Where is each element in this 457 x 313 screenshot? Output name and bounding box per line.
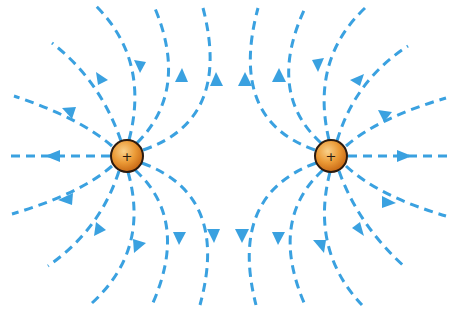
left-charge: + (111, 140, 143, 172)
right-charge: + (315, 140, 347, 172)
arrow-icon (352, 222, 364, 236)
arrow-left-icon (45, 150, 60, 162)
arrow-icon (133, 239, 146, 253)
arrow-icon (312, 58, 324, 72)
arrow-icon (96, 72, 108, 85)
field-line (137, 6, 169, 143)
arrow-icon (94, 222, 106, 236)
arrow-icon (382, 196, 396, 208)
field-line (92, 172, 134, 303)
charge-sign: + (326, 149, 337, 164)
charge-sign: + (122, 149, 133, 164)
field-line (96, 6, 135, 140)
arrow-icon (272, 68, 286, 82)
field-diagram: + + (0, 0, 457, 313)
arrow-icon (207, 229, 220, 243)
field-line (324, 172, 362, 305)
field-line (290, 170, 323, 305)
field-line (135, 170, 168, 305)
arrow-icon (350, 74, 364, 86)
arrow-icon (313, 240, 326, 253)
arrow-icon (58, 193, 73, 205)
arrow-icon (173, 232, 186, 245)
field-line (14, 96, 112, 146)
arrow-icon (134, 60, 146, 73)
field-line (289, 6, 321, 143)
arrow-icon (210, 72, 223, 86)
field-line (12, 166, 112, 214)
arrow-icon (272, 232, 285, 245)
arrow-right-icon (397, 150, 412, 162)
field-line (346, 166, 446, 216)
arrow-icon (175, 68, 188, 82)
arrow-icon (235, 229, 249, 243)
field-line (346, 98, 446, 146)
